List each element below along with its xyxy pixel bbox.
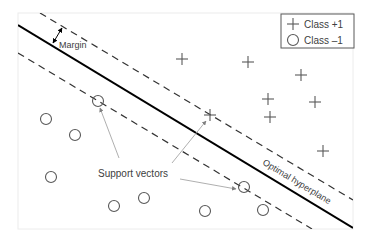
legend-class-minus-label: Class –1: [304, 35, 343, 46]
legend: Class +1 Class –1: [281, 14, 354, 48]
support-vectors-label: Support vectors: [98, 168, 168, 179]
svm-diagram: Margin Support vectors Optimal hyperplan…: [0, 0, 373, 239]
legend-class-plus-label: Class +1: [304, 19, 344, 30]
margin-label: Margin: [59, 40, 87, 50]
